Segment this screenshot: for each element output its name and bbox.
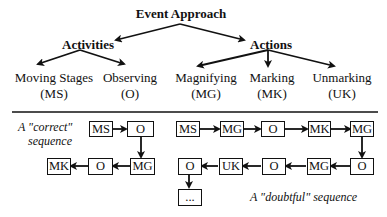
seq-node-mg: MG <box>130 158 155 175</box>
diagram-arrows <box>0 0 387 217</box>
seq-node-o: O <box>350 158 374 175</box>
leaf-abbr: (MS) <box>4 86 104 102</box>
seq-node-mk: MK <box>47 158 71 175</box>
group-activities: Activities <box>58 37 118 53</box>
leaf-name: Unmarking <box>306 70 378 86</box>
seq-node-mg: MG <box>350 121 374 137</box>
leaf-abbr: (O) <box>100 86 160 102</box>
leaf-name: Observing <box>100 70 160 86</box>
leaf-name: Moving Stages <box>4 70 104 86</box>
seq-node-o: O <box>261 121 285 137</box>
seq-node-o: O <box>127 121 154 137</box>
leaf-unmarking: Unmarking (UK) <box>306 70 378 102</box>
leaf-name: Marking <box>244 70 300 86</box>
leaf-abbr: (MG) <box>168 86 244 102</box>
leaf-observing: Observing (O) <box>100 70 160 102</box>
leaf-abbr: (UK) <box>306 86 378 102</box>
seq-node-o: O <box>178 158 202 175</box>
caption-line: sequence <box>18 134 88 148</box>
caption-line: A "correct" <box>18 120 88 134</box>
seq-node-mg: MG <box>220 121 244 137</box>
group-actions: Actions <box>243 37 299 53</box>
seq-node-ms: MS <box>89 121 113 137</box>
leaf-marking: Marking (MK) <box>244 70 300 102</box>
doubtful-sequence-caption: A "doubtful" sequence <box>250 190 380 204</box>
seq-node-mg: MG <box>307 158 331 175</box>
seq-node-uk: UK <box>219 158 243 175</box>
correct-sequence-caption: A "correct" sequence <box>18 120 88 148</box>
leaf-name: Magnifying <box>168 70 244 86</box>
seq-node-ms: MS <box>176 121 200 137</box>
seq-node-o: O <box>88 158 113 175</box>
leaf-moving-stages: Moving Stages (MS) <box>4 70 104 102</box>
seq-node-ellipsis: ... <box>178 189 202 206</box>
seq-node-mk: MK <box>308 121 331 137</box>
seq-node-o: O <box>262 158 286 175</box>
root-event-approach: Event Approach <box>126 6 236 22</box>
leaf-magnifying: Magnifying (MG) <box>168 70 244 102</box>
leaf-abbr: (MK) <box>244 86 300 102</box>
